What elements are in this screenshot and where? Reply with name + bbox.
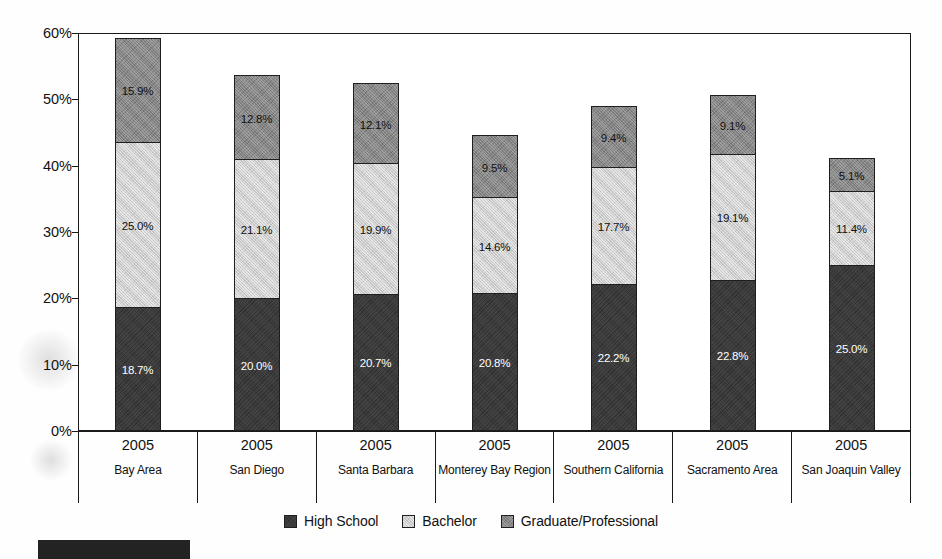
bar-segment-value-label: 12.8% [241, 113, 273, 125]
y-axis-tick-label: 30% [8, 225, 72, 239]
y-axis-tick-label: 20% [8, 291, 72, 305]
bar-segment[interactable]: 22.2% [591, 284, 637, 431]
stacked-bar[interactable]: 12.8%21.1%20.0% [234, 76, 280, 431]
legend-item[interactable]: Graduate/Professional [501, 513, 658, 529]
y-axis-tick-label: 0% [8, 424, 72, 438]
bar-group: 9.4%17.7%22.2% [554, 33, 673, 431]
category-name-label: Monterey Bay Region [437, 464, 552, 477]
bar-segment-value-label: 20.7% [360, 357, 392, 369]
legend-label: Bachelor [422, 513, 476, 529]
stacked-bar-chart: 60%50%40%30%20%10%0% 15.9%25.0%18.7%12.8… [0, 0, 942, 559]
bar-group: 15.9%25.0%18.7% [78, 33, 197, 431]
bar-segment-value-label: 11.4% [836, 223, 867, 235]
legend-label: Graduate/Professional [521, 513, 658, 529]
category-cell: 2005San Diego [198, 432, 317, 503]
bar-segment[interactable]: 9.5% [472, 135, 518, 198]
bar-segment[interactable]: 19.9% [353, 163, 399, 295]
category-name-label: Santa Barbara [337, 464, 414, 477]
bar-segment[interactable]: 20.7% [353, 294, 399, 431]
bars-layer: 15.9%25.0%18.7%12.8%21.1%20.0%12.1%19.9%… [78, 33, 911, 431]
bar-group: 9.5%14.6%20.8% [435, 33, 554, 431]
chart-legend: High SchoolBachelorGraduate/Professional [0, 513, 942, 529]
page-scan-artifact [38, 540, 190, 559]
bar-segment[interactable]: 19.1% [710, 154, 756, 281]
bar-segment-value-label: 22.8% [717, 350, 749, 362]
category-name-label: San Diego [228, 464, 285, 477]
category-year-label: 2005 [360, 437, 392, 453]
category-cell: 2005San Joaquin Valley [792, 432, 910, 503]
y-axis-tick-label: 50% [8, 92, 72, 106]
bar-segment-value-label: 5.1% [839, 170, 864, 182]
category-year-label: 2005 [478, 437, 510, 453]
bar-segment[interactable]: 18.7% [115, 307, 161, 431]
category-name-label: Southern California [562, 464, 664, 477]
bar-group: 12.1%19.9%20.7% [316, 33, 435, 431]
category-cell: 2005Santa Barbara [317, 432, 436, 503]
category-year-label: 2005 [122, 437, 154, 453]
bar-group: 5.1%11.4%25.0% [792, 33, 911, 431]
category-axis: 2005Bay Area2005San Diego2005Santa Barba… [78, 431, 911, 503]
bar-segment[interactable]: 22.8% [710, 280, 756, 431]
y-axis: 60%50%40%30%20%10%0% [0, 33, 72, 431]
legend-label: High School [304, 513, 378, 529]
bar-segment-value-label: 20.8% [479, 357, 511, 369]
bar-segment-value-label: 9.4% [601, 132, 626, 144]
bar-segment-value-label: 22.2% [598, 352, 630, 364]
bar-segment-value-label: 9.1% [720, 120, 745, 132]
bar-segment[interactable]: 20.0% [234, 298, 280, 431]
bar-group: 12.8%21.1%20.0% [197, 33, 316, 431]
bar-segment-value-label: 9.5% [482, 162, 507, 174]
bar-segment[interactable]: 11.4% [829, 191, 875, 267]
bar-segment-value-label: 21.1% [241, 224, 273, 236]
bar-segment[interactable]: 9.4% [591, 106, 637, 168]
bar-segment[interactable]: 25.0% [829, 265, 875, 431]
bar-segment-value-label: 14.6% [479, 241, 511, 253]
bar-segment[interactable]: 17.7% [591, 167, 637, 284]
bar-segment-value-label: 15.9% [122, 85, 154, 97]
stacked-bar[interactable]: 9.4%17.7%22.2% [591, 107, 637, 431]
bar-segment[interactable]: 20.8% [472, 293, 518, 431]
y-axis-tick-label: 40% [8, 159, 72, 173]
bar-segment-value-label: 12.1% [360, 119, 392, 131]
legend-swatch-high-school-icon [284, 515, 297, 528]
legend-item[interactable]: High School [284, 513, 378, 529]
bar-segment[interactable]: 12.8% [234, 75, 280, 160]
bar-segment[interactable]: 25.0% [115, 142, 161, 308]
bar-group: 9.1%19.1%22.8% [673, 33, 792, 431]
category-cell: 2005Bay Area [79, 432, 198, 503]
stacked-bar[interactable]: 9.5%14.6%20.8% [472, 136, 518, 431]
bar-segment[interactable]: 12.1% [353, 83, 399, 163]
category-cell: 2005Southern California [554, 432, 673, 503]
category-cell: 2005Monterey Bay Region [436, 432, 555, 503]
bar-segment-value-label: 25.0% [836, 343, 868, 355]
bar-segment-value-label: 17.7% [598, 221, 630, 233]
category-cell: 2005Sacramento Area [673, 432, 792, 503]
category-name-label: Bay Area [113, 464, 163, 477]
bar-segment[interactable]: 5.1% [829, 158, 875, 192]
legend-item[interactable]: Bachelor [402, 513, 476, 529]
y-axis-tick-label: 10% [8, 358, 72, 372]
bar-segment-value-label: 19.9% [360, 224, 392, 236]
bar-segment-value-label: 20.0% [241, 360, 273, 372]
category-year-label: 2005 [716, 437, 748, 453]
bar-segment[interactable]: 9.1% [710, 95, 756, 155]
category-year-label: 2005 [597, 437, 629, 453]
bar-segment-value-label: 18.7% [122, 364, 154, 376]
bar-segment-value-label: 19.1% [717, 212, 749, 224]
stacked-bar[interactable]: 15.9%25.0%18.7% [115, 39, 161, 431]
stacked-bar[interactable]: 5.1%11.4%25.0% [829, 159, 875, 431]
category-name-label: Sacramento Area [686, 464, 778, 477]
stacked-bar[interactable]: 12.1%19.9%20.7% [353, 84, 399, 431]
bar-segment[interactable]: 21.1% [234, 159, 280, 299]
stacked-bar[interactable]: 9.1%19.1%22.8% [710, 96, 756, 431]
category-year-label: 2005 [835, 437, 867, 453]
legend-swatch-bachelor-icon [402, 515, 415, 528]
legend-swatch-graduate-professional-icon [501, 515, 514, 528]
bar-segment[interactable]: 14.6% [472, 197, 518, 294]
bar-segment-value-label: 25.0% [122, 220, 154, 232]
category-year-label: 2005 [241, 437, 273, 453]
category-name-label: San Joaquin Valley [801, 464, 902, 477]
y-axis-tick-label: 60% [8, 26, 72, 40]
bar-segment[interactable]: 15.9% [115, 38, 161, 143]
